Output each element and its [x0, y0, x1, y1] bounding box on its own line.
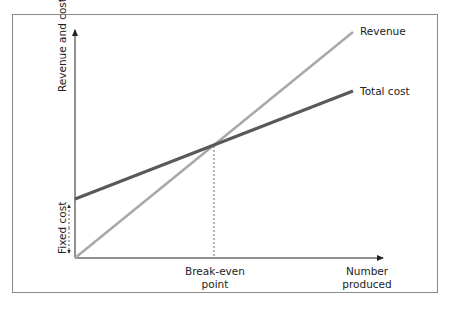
x-axis-label: Number produced	[337, 265, 397, 291]
y-axis-label: Revenue and costs	[56, 0, 68, 92]
break-even-label-line2: point	[184, 278, 246, 291]
revenue-label: Revenue	[360, 25, 406, 38]
x-axis-label-line1: Number	[337, 265, 397, 278]
x-axis-label-line2: produced	[337, 278, 397, 291]
break-even-label-line1: Break-even	[184, 265, 246, 278]
total-cost-label: Total cost	[360, 85, 410, 98]
break-even-label: Break-even point	[184, 265, 246, 291]
fixed-cost-label: Fixed cost	[56, 202, 68, 254]
